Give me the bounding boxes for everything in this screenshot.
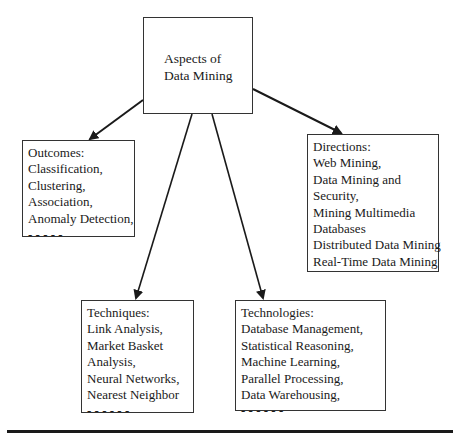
node-item: Parallel Processing, (241, 371, 385, 387)
arrow-to-technologies (212, 114, 263, 298)
node-item: Security, (313, 188, 438, 204)
node-directions: Directions: Web Mining, Data Mining and … (307, 134, 439, 272)
node-item: Mining Multimedia (313, 205, 438, 221)
node-item: Data Mining and (313, 172, 438, 188)
node-item: Data Warehousing, (241, 387, 385, 403)
node-item: Machine Learning, (241, 354, 385, 370)
node-item: Clustering, (28, 178, 134, 194)
node-item: Web Mining, (313, 155, 438, 171)
arrow-to-outcomes (90, 100, 143, 139)
node-item: Distributed Data Mining (313, 237, 438, 253)
node-item: Statistical Reasoning, (241, 338, 385, 354)
arrow-to-directions (253, 89, 341, 133)
node-item: Market Basket (87, 338, 193, 354)
node-item: Neural Networks, (87, 371, 193, 387)
node-technologies: Technologies: Database Management, Stati… (235, 300, 386, 411)
node-ellipsis: - - - - - - (87, 403, 193, 419)
node-item: Analysis, (87, 354, 193, 370)
node-heading: Directions: (313, 139, 438, 155)
node-item: Databases (313, 221, 438, 237)
root-node-aspects-of-data-mining: Aspects of Data Mining (143, 17, 253, 114)
node-item: Classification, (28, 161, 134, 177)
node-item: Nearest Neighbor (87, 387, 193, 403)
root-label-line: Data Mining (164, 67, 252, 84)
node-ellipsis: - - - - - - (241, 403, 385, 419)
node-item: Anomaly Detection, (28, 211, 134, 227)
node-heading: Outcomes: (28, 145, 134, 161)
node-item: Association, (28, 194, 134, 210)
node-item: Real-Time Data Mining (313, 254, 438, 270)
node-techniques: Techniques: Link Analysis, Market Basket… (81, 300, 194, 413)
root-label-line: Aspects of (164, 50, 252, 67)
bottom-rule-divider (7, 430, 453, 433)
node-ellipsis: - - - - - (28, 227, 134, 243)
arrow-to-techniques (136, 114, 192, 298)
node-heading: Technologies: (241, 305, 385, 321)
node-item: Database Management, (241, 321, 385, 337)
node-outcomes: Outcomes: Classification, Clustering, As… (22, 140, 135, 237)
node-heading: Techniques: (87, 305, 193, 321)
node-item: Link Analysis, (87, 321, 193, 337)
